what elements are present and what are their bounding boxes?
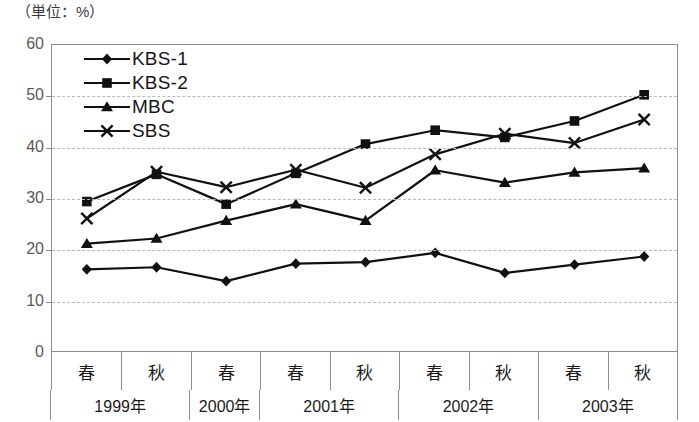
gridline bbox=[52, 148, 677, 149]
x-axis-year-cell: 2001年 bbox=[259, 390, 399, 420]
x-axis-season-cell: 秋 bbox=[608, 352, 677, 390]
x-axis-season-cell: 春 bbox=[52, 352, 121, 390]
legend-marker-triangle-icon bbox=[82, 97, 132, 117]
x-axis-season-cell: 秋 bbox=[121, 352, 190, 390]
x-axis-year-row: 1999年2000年2001年2002年2003年 bbox=[51, 390, 678, 420]
series-kbs-1 bbox=[82, 248, 650, 287]
y-axis-tick-mark bbox=[46, 96, 52, 97]
x-axis-year-cell: 2000年 bbox=[189, 390, 260, 420]
y-axis-tick-label: 40 bbox=[4, 139, 44, 155]
gridline bbox=[52, 199, 677, 200]
legend-label: KBS-2 bbox=[132, 73, 188, 93]
y-axis-tick-mark bbox=[46, 250, 52, 251]
x-axis-year-cell: 1999年 bbox=[50, 390, 190, 420]
y-axis-tick-label: 0 bbox=[4, 344, 44, 360]
y-axis-tick-label: 10 bbox=[4, 293, 44, 309]
y-axis-tick-mark bbox=[46, 148, 52, 149]
gridline bbox=[52, 302, 677, 303]
line-chart: （単位：%） 0102030405060 KBS-1KBS-2MBCSBS 春秋… bbox=[0, 0, 699, 422]
x-axis-year-cell: 2003年 bbox=[538, 390, 678, 420]
legend: KBS-1KBS-2MBCSBS bbox=[82, 47, 188, 142]
y-axis-tick-label: 50 bbox=[4, 87, 44, 103]
x-axis-season-cell: 春 bbox=[538, 352, 607, 390]
y-axis-tick-mark bbox=[46, 302, 52, 303]
legend-item-kbs-2[interactable]: KBS-2 bbox=[82, 71, 188, 94]
y-axis-tick-label: 20 bbox=[4, 241, 44, 257]
x-axis-season-cell: 春 bbox=[399, 352, 468, 390]
x-axis-season-cell: 春 bbox=[191, 352, 260, 390]
x-axis-year-cell: 2002年 bbox=[398, 390, 538, 420]
y-axis-tick-label: 30 bbox=[4, 190, 44, 206]
y-axis: 0102030405060 bbox=[2, 0, 44, 422]
legend-marker-square-icon bbox=[82, 73, 132, 93]
legend-marker-cross-icon bbox=[82, 121, 132, 141]
series-mbc bbox=[81, 163, 650, 248]
legend-item-mbc[interactable]: MBC bbox=[82, 95, 188, 118]
x-axis-season-row: 春秋春春秋春秋春秋 bbox=[51, 352, 678, 390]
legend-item-kbs-1[interactable]: KBS-1 bbox=[82, 47, 188, 70]
legend-label: SBS bbox=[132, 121, 171, 141]
x-axis-season-cell: 春 bbox=[260, 352, 329, 390]
legend-label: MBC bbox=[132, 97, 175, 117]
x-axis-season-cell: 秋 bbox=[330, 352, 399, 390]
y-axis-tick-mark bbox=[46, 199, 52, 200]
legend-label: KBS-1 bbox=[132, 49, 188, 69]
y-axis-tick-label: 60 bbox=[4, 36, 44, 52]
legend-marker-diamond-icon bbox=[82, 49, 132, 69]
legend-item-sbs[interactable]: SBS bbox=[82, 119, 188, 142]
x-axis-season-cell: 秋 bbox=[469, 352, 538, 390]
gridline bbox=[52, 250, 677, 251]
